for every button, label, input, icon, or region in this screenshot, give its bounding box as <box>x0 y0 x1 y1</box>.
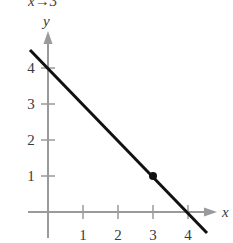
data-point-3-1 <box>149 172 157 180</box>
cropped-header-text: x→3 <box>27 0 57 9</box>
x-axis: x <box>28 204 229 220</box>
y-tick-label-1: 1 <box>27 168 35 184</box>
x-axis-label: x <box>221 204 229 220</box>
chart: x→3 y x 1 2 3 4 1 2 3 4 <box>0 0 233 243</box>
y-axis: y <box>41 13 53 238</box>
y-tick-label-2: 2 <box>27 132 35 148</box>
x-tick-label-4: 4 <box>184 227 192 243</box>
y-axis-label: y <box>41 13 50 29</box>
x-axis-arrow-icon <box>204 208 217 217</box>
y-axis-arrow-icon <box>44 31 53 44</box>
x-tick-label-1: 1 <box>79 227 87 243</box>
y-tick-label-3: 3 <box>27 96 35 112</box>
x-tick-label-2: 2 <box>114 227 122 243</box>
y-tick-label-4: 4 <box>27 60 35 76</box>
x-tick-label-3: 3 <box>149 227 157 243</box>
